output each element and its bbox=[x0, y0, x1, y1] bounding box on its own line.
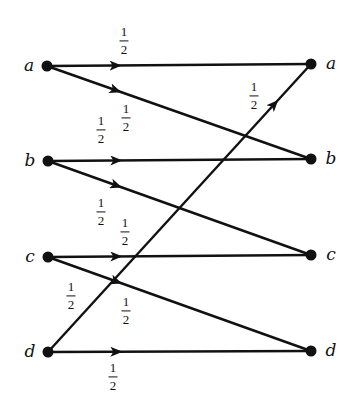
left-node-label-b: b bbox=[25, 152, 36, 169]
edge-weight-label: 1 2 bbox=[120, 25, 129, 56]
fraction-bar bbox=[97, 129, 106, 130]
fraction-bar bbox=[120, 40, 129, 41]
fraction-denominator: 2 bbox=[109, 380, 118, 393]
right-node-b bbox=[306, 154, 317, 165]
fraction-bar bbox=[121, 231, 130, 232]
left-node-label-c: c bbox=[25, 248, 35, 265]
edge-c-to-d bbox=[48, 257, 311, 351]
edge-line bbox=[48, 351, 311, 352]
edge-c-to-c bbox=[48, 255, 311, 257]
edge-line bbox=[48, 257, 311, 351]
right-node-c bbox=[306, 250, 317, 261]
left-node-label-a: a bbox=[24, 57, 34, 74]
fraction-numerator: 1 bbox=[122, 102, 131, 115]
edge-weight-label: 1 2 bbox=[109, 361, 118, 392]
fraction-numerator: 1 bbox=[250, 80, 259, 93]
fraction-numerator: 1 bbox=[122, 295, 131, 308]
edge-weight-label: 1 2 bbox=[97, 196, 106, 227]
left-node-c bbox=[43, 252, 54, 263]
fraction-numerator: 1 bbox=[97, 114, 106, 127]
right-node-d bbox=[306, 346, 317, 357]
edge-d-to-a bbox=[48, 64, 311, 352]
fraction-bar bbox=[122, 117, 131, 118]
edge-weight-label: 1 2 bbox=[67, 280, 76, 311]
fraction-denominator: 2 bbox=[97, 215, 106, 228]
right-node-label-c: c bbox=[326, 246, 336, 263]
right-node-label-b: b bbox=[326, 150, 337, 167]
arrowhead-icon bbox=[114, 90, 116, 91]
edge-weight-label: 1 2 bbox=[122, 295, 131, 326]
edge-weight-label: 1 2 bbox=[250, 80, 259, 111]
fraction-denominator: 2 bbox=[121, 235, 130, 248]
right-node-label-a: a bbox=[326, 55, 336, 72]
edge-line bbox=[48, 159, 311, 161]
fraction-bar bbox=[250, 95, 259, 96]
edge-line bbox=[48, 255, 311, 257]
left-node-b bbox=[43, 156, 54, 167]
fraction-denominator: 2 bbox=[250, 99, 259, 112]
fraction-denominator: 2 bbox=[67, 299, 76, 312]
edge-d-to-d bbox=[48, 351, 311, 352]
edge-line bbox=[47, 66, 311, 159]
fraction-denominator: 2 bbox=[122, 121, 131, 134]
right-node-a bbox=[306, 59, 317, 70]
left-node-d bbox=[43, 347, 54, 358]
fraction-bar bbox=[109, 376, 118, 377]
edge-b-to-b bbox=[48, 159, 311, 161]
transition-diagram bbox=[0, 0, 355, 417]
fraction-numerator: 1 bbox=[67, 280, 76, 293]
edge-line bbox=[47, 64, 311, 66]
fraction-numerator: 1 bbox=[97, 196, 106, 209]
left-node-label-d: d bbox=[25, 343, 36, 360]
fraction-denominator: 2 bbox=[120, 44, 129, 57]
fraction-numerator: 1 bbox=[109, 361, 118, 374]
edge-line bbox=[48, 64, 311, 352]
arrowhead-icon bbox=[114, 281, 116, 282]
edge-a-to-b bbox=[47, 66, 311, 159]
fraction-bar bbox=[97, 211, 106, 212]
edge-a-to-a bbox=[47, 64, 311, 66]
fraction-bar bbox=[122, 310, 131, 311]
right-node-label-d: d bbox=[326, 342, 337, 359]
fraction-bar bbox=[67, 295, 76, 296]
edge-weight-label: 1 2 bbox=[121, 216, 130, 247]
fraction-denominator: 2 bbox=[97, 133, 106, 146]
arrowhead-icon bbox=[273, 104, 274, 105]
fraction-numerator: 1 bbox=[120, 25, 129, 38]
arrowhead-icon bbox=[114, 185, 116, 186]
left-node-a bbox=[42, 61, 53, 72]
fraction-numerator: 1 bbox=[121, 216, 130, 229]
edges-layer bbox=[47, 64, 311, 352]
edge-weight-label: 1 2 bbox=[122, 102, 131, 133]
edge-weight-label: 1 2 bbox=[97, 114, 106, 145]
fraction-denominator: 2 bbox=[122, 314, 131, 327]
